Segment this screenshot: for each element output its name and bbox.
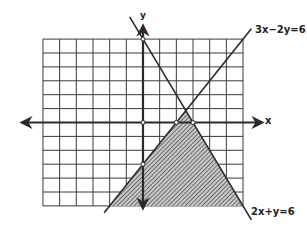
line2-label: 2x+y=6 [251,206,295,217]
x-axis-label: x [265,115,271,126]
inequality-graph [0,0,307,238]
line1-label: 3x−2y=6 [255,24,306,35]
y-axis-label: y [140,10,146,20]
